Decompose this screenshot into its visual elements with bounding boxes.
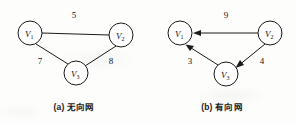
edge-weight-v2-v1: 9 — [224, 10, 229, 20]
edge-weight-v1-v2: 5 — [72, 10, 77, 20]
edge-weight-v1-v3: 7 — [38, 56, 43, 66]
caption-undirected: (a) 无向网 — [0, 100, 148, 112]
arrowhead-v2-to-v3 — [236, 60, 245, 68]
node-v2: V2 — [109, 23, 133, 47]
node-v2: V2 — [258, 21, 282, 45]
undirected-graph-svg: 5 7 8 V1 V2 V3 — [0, 0, 148, 100]
edge-weight-v2-v3: 4 — [260, 56, 265, 66]
panel-directed-network: 9 3 4 V1 V2 V3 (b) 有向网 — [148, 0, 296, 123]
figure-container: 5 7 8 V1 V2 V3 (a) 无向网 — [0, 0, 296, 123]
node-v3: V3 — [214, 62, 238, 86]
arrowhead-v2-to-v1 — [193, 30, 201, 36]
edge-weight-v3-v1: 3 — [188, 56, 193, 66]
edge-weight-v2-v3: 8 — [109, 56, 114, 66]
directed-graph-svg: 9 3 4 V1 V2 V3 — [148, 0, 296, 100]
caption-directed: (b) 有向网 — [148, 100, 296, 112]
node-v3: V3 — [64, 61, 88, 85]
node-v1: V1 — [18, 21, 42, 45]
panel-undirected-network: 5 7 8 V1 V2 V3 (a) 无向网 — [0, 0, 148, 123]
edge-v3-to-v1 — [188, 46, 218, 65]
node-v1: V1 — [168, 21, 192, 45]
arrowhead-v3-to-v1 — [186, 45, 195, 52]
edge-v1-v2 — [42, 33, 109, 35]
